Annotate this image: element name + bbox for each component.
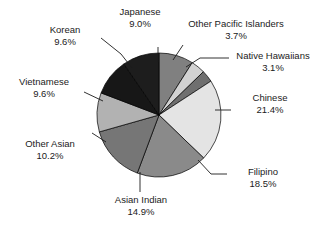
slice-label-asian-indian: Asian Indian 14.9% [95,194,187,217]
slice-label-asian-indian-name: Asian Indian [95,194,187,206]
slice-label-chinese: Chinese 21.4% [232,92,308,115]
slice-label-japanese: Japanese 9.0% [100,6,180,29]
slice-label-korean-name: Korean [32,24,98,36]
slice-label-chinese-value: 21.4% [232,104,308,116]
leader-line-filipino [198,160,227,174]
slice-label-vietnamese-name: Vietnamese [4,76,84,88]
slice-label-native-hawaiians: Native Hawaiians 3.1% [224,50,322,73]
slice-label-chinese-name: Chinese [232,92,308,104]
slice-label-filipino: Filipino 18.5% [228,166,298,189]
slice-label-korean: Korean 9.6% [32,24,98,47]
slice-label-native-hawaiians-name: Native Hawaiians [224,50,322,62]
slice-label-vietnamese: Vietnamese 9.6% [4,76,84,99]
slice-label-filipino-value: 18.5% [228,178,298,190]
slice-label-vietnamese-value: 9.6% [4,88,84,100]
slice-label-other-asian: Other Asian 10.2% [8,138,92,161]
slice-label-other-pacific-islanders: Other Pacific Islanders 3.7% [176,18,296,41]
slice-label-asian-indian-value: 14.9% [95,206,187,218]
pie-slice-group [97,53,221,177]
slice-label-other-pacific-islanders-value: 3.7% [176,30,296,42]
slice-label-japanese-name: Japanese [100,6,180,18]
slice-label-japanese-value: 9.0% [100,18,180,30]
pie-chart-figure: Japanese 9.0% Other Pacific Islanders 3.… [0,0,323,233]
slice-label-native-hawaiians-value: 3.1% [224,62,322,74]
slice-label-other-asian-name: Other Asian [8,138,92,150]
slice-label-filipino-name: Filipino [228,166,298,178]
slice-label-korean-value: 9.6% [32,36,98,48]
slice-label-other-pacific-islanders-name: Other Pacific Islanders [176,18,296,30]
slice-label-other-asian-value: 10.2% [8,150,92,162]
